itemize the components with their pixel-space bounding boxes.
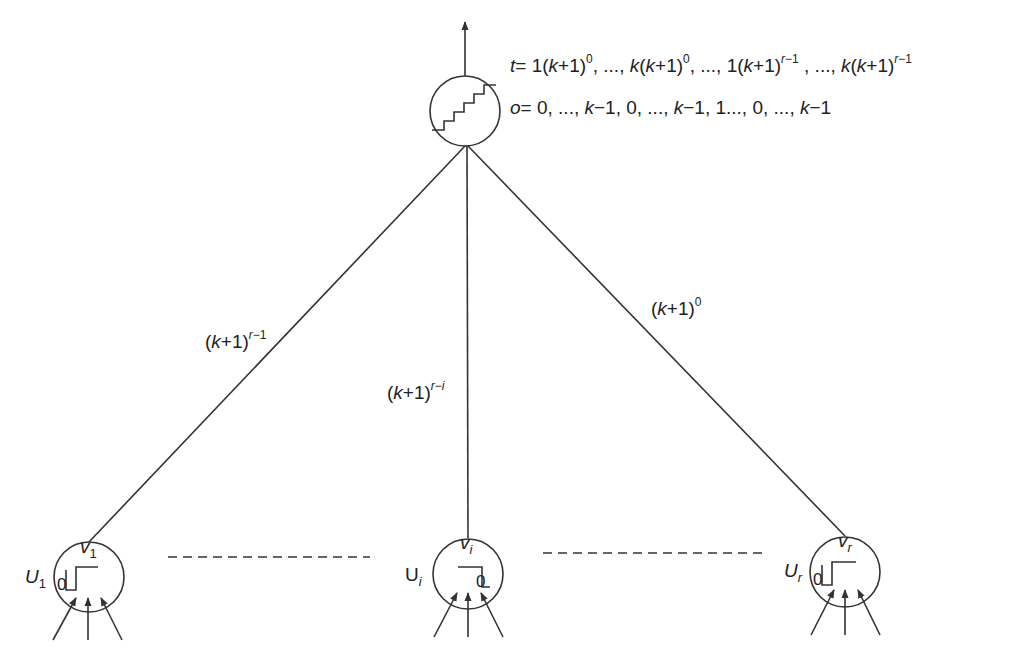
output-neuron [430,76,500,146]
zero-label: 0 [476,572,485,591]
threshold-vi: vi [460,532,472,557]
zero-label: 0 [57,575,66,594]
o-sequence-label: o= 0, ..., k−1, 0, ..., k−1, 1..., 0, ..… [510,97,831,119]
t-sequence-label: t= 1(k+1)0, ..., k(k+1)0, ..., 1(k+1)r−1… [510,54,912,77]
edge-ur [468,146,845,536]
threshold-vr: vr [838,530,852,555]
unit-label-ur: Ur [784,560,802,585]
edge-weight-ur: (k+1)0 [651,297,702,320]
unit-label-ui: Ui [405,564,422,589]
edge-u1 [89,146,465,542]
threshold-v1: v1 [80,536,97,561]
edge-weight-u1: (k+1)r−1 [205,330,267,353]
edge-weight-ui: (k+1)r−i [387,381,445,404]
edge-ui [467,146,468,538]
unit-label-u1: U1 [25,566,46,591]
zero-label: 0 [813,570,822,589]
